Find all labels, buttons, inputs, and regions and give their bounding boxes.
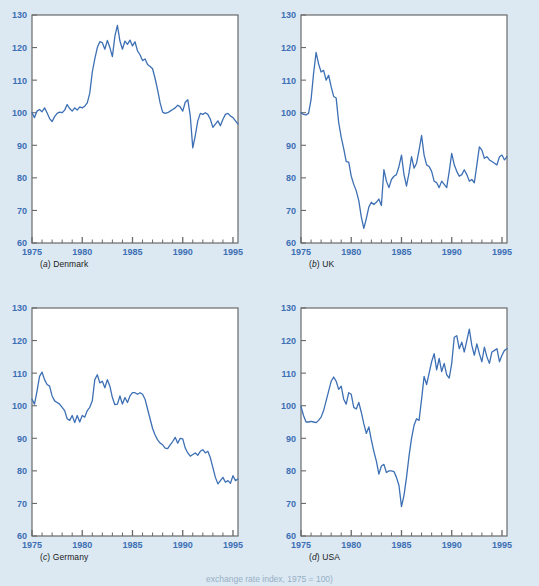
panel-caption-uk: (b) UK	[309, 259, 334, 269]
x-axis-tick-label: 1975	[22, 247, 42, 257]
plot-area-background	[301, 308, 507, 536]
x-axis-tick-label: 1975	[291, 540, 311, 550]
x-axis-tick-label: 1980	[72, 247, 92, 257]
x-axis-tick-label: 1995	[223, 540, 243, 550]
y-axis-tick-label: 110	[12, 76, 27, 86]
x-axis-tick-label: 1995	[223, 247, 243, 257]
y-axis-tick-label: 80	[17, 466, 27, 476]
x-axis-tick-label: 1985	[391, 247, 411, 257]
x-axis-tick-label: 1990	[173, 540, 193, 550]
y-axis-tick-label: 70	[286, 206, 296, 216]
x-axis-tick-label: 1980	[341, 540, 361, 550]
y-axis-tick-label: 90	[286, 141, 296, 151]
chart-panel-usa: 6070809010011012013019751980198519901995	[269, 293, 538, 586]
y-axis-tick-label: 120	[12, 336, 27, 346]
x-axis-tick-label: 1990	[442, 540, 462, 550]
y-axis-tick-label: 120	[12, 43, 27, 53]
line-chart-usa: 6070809010011012013019751980198519901995	[269, 293, 538, 586]
x-axis-tick-label: 1995	[492, 247, 512, 257]
y-axis-tick-label: 110	[281, 369, 296, 379]
x-axis-tick-label: 1985	[391, 540, 411, 550]
figure-bottom-caption: exchange rate index, 1975 = 100)	[0, 574, 539, 586]
panel-caption-usa: (d) USA	[309, 552, 340, 562]
y-axis-tick-label: 80	[17, 173, 27, 183]
y-axis-tick-label: 100	[12, 401, 27, 411]
panel-caption-germany: (c) Germany	[40, 552, 88, 562]
y-axis-tick-label: 130	[12, 10, 27, 20]
figure-panel-grid: 6070809010011012013019751980198519901995…	[0, 0, 539, 586]
x-axis-tick-label: 1980	[72, 540, 92, 550]
y-axis-tick-label: 80	[286, 173, 296, 183]
x-axis-tick-label: 1975	[291, 247, 311, 257]
y-axis-tick-label: 110	[12, 369, 27, 379]
x-axis-tick-label: 1990	[442, 247, 462, 257]
y-axis-tick-label: 80	[286, 466, 296, 476]
y-axis-tick-label: 130	[281, 303, 296, 313]
y-axis-tick-label: 120	[281, 43, 296, 53]
y-axis-tick-label: 90	[17, 141, 27, 151]
y-axis-tick-label: 100	[281, 108, 296, 118]
x-axis-tick-label: 1975	[22, 540, 42, 550]
panel-letter: b	[312, 259, 317, 269]
y-axis-tick-label: 130	[281, 10, 296, 20]
x-axis-tick-label: 1980	[341, 247, 361, 257]
chart-panel-denmark: 6070809010011012013019751980198519901995	[0, 0, 269, 293]
plot-area-background	[32, 15, 238, 243]
panel-caption-denmark: (a) Denmark	[40, 259, 88, 269]
y-axis-tick-label: 110	[281, 76, 296, 86]
y-axis-tick-label: 90	[286, 434, 296, 444]
chart-panel-uk: 6070809010011012013019751980198519901995	[269, 0, 538, 293]
line-chart-uk: 6070809010011012013019751980198519901995	[269, 0, 538, 293]
x-axis-tick-label: 1990	[173, 247, 193, 257]
line-chart-denmark: 6070809010011012013019751980198519901995	[0, 0, 269, 293]
x-axis-tick-label: 1995	[492, 540, 512, 550]
y-axis-tick-label: 130	[12, 303, 27, 313]
line-chart-germany: 6070809010011012013019751980198519901995	[0, 293, 269, 586]
panel-letter: a	[43, 259, 48, 269]
panel-letter: d	[312, 552, 317, 562]
y-axis-tick-label: 120	[281, 336, 296, 346]
chart-panel-germany: 6070809010011012013019751980198519901995	[0, 293, 269, 586]
y-axis-tick-label: 70	[17, 206, 27, 216]
y-axis-tick-label: 70	[17, 499, 27, 509]
y-axis-tick-label: 100	[12, 108, 27, 118]
plot-area-background	[32, 308, 238, 536]
x-axis-tick-label: 1985	[122, 247, 142, 257]
plot-area-background	[301, 15, 507, 243]
x-axis-tick-label: 1985	[122, 540, 142, 550]
panel-letter: c	[43, 552, 47, 562]
y-axis-tick-label: 100	[281, 401, 296, 411]
y-axis-tick-label: 70	[286, 499, 296, 509]
y-axis-tick-label: 90	[17, 434, 27, 444]
